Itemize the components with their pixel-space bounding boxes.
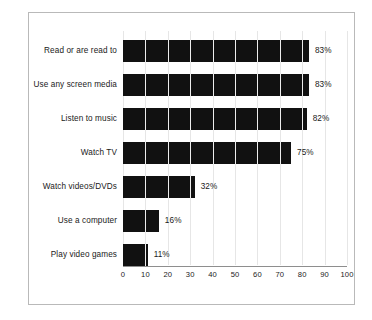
bar-value-label: 32% <box>201 183 218 191</box>
x-tick-label-0: 0 <box>121 271 125 279</box>
x-tick-label-50: 50 <box>231 271 240 279</box>
bar-value-label: 75% <box>297 149 314 157</box>
plot-area: 83%83%82%75%32%16%11% 010203040506070809… <box>123 13 347 304</box>
bar-gridline-overlay <box>235 108 236 130</box>
clipped-title-remnant <box>34 0 154 2</box>
bar-gridline-overlay <box>190 142 191 164</box>
bar-gridline-overlay <box>280 142 281 164</box>
bar-gridline-overlay <box>302 108 303 130</box>
x-tick-label-20: 20 <box>163 271 172 279</box>
x-tick-label-100: 100 <box>341 271 354 279</box>
bar-gridline-overlay <box>190 74 191 96</box>
gridline-90 <box>325 31 326 265</box>
bar-gridline-overlay <box>257 74 258 96</box>
bar-gridline-overlay <box>145 108 146 130</box>
category-label: Use a computer <box>29 217 117 225</box>
bar-gridline-overlay <box>168 40 169 62</box>
bar <box>123 244 148 266</box>
bar-gridline-overlay <box>168 142 169 164</box>
bar-gridline-overlay <box>213 74 214 96</box>
bar <box>123 74 309 96</box>
category-label: Play video games <box>29 251 117 259</box>
bar-gridline-overlay <box>145 74 146 96</box>
bar-gridline-overlay <box>280 74 281 96</box>
bar-gridline-overlay <box>302 74 303 96</box>
bar-gridline-overlay <box>213 108 214 130</box>
bar-gridline-overlay <box>257 142 258 164</box>
bar <box>123 210 159 232</box>
chart-plot-wrapper: Read or are read toUse any screen mediaL… <box>29 13 354 304</box>
bar-value-label: 83% <box>315 47 332 55</box>
bar <box>123 176 195 198</box>
category-label: Read or are read to <box>29 47 117 55</box>
bar-value-label: 11% <box>154 251 170 259</box>
bar-gridline-overlay <box>190 40 191 62</box>
bar-gridline-overlay <box>280 108 281 130</box>
x-tick-label-80: 80 <box>298 271 307 279</box>
bar <box>123 40 309 62</box>
category-label: Watch videos/DVDs <box>29 183 117 191</box>
chart-frame: Read or are read toUse any screen mediaL… <box>28 12 355 305</box>
bar-gridline-overlay <box>168 74 169 96</box>
bar-gridline-overlay <box>213 40 214 62</box>
category-label: Watch TV <box>29 149 117 157</box>
category-label: Listen to music <box>29 115 117 123</box>
bar-gridline-overlay <box>145 210 146 232</box>
bar-gridline-overlay <box>168 108 169 130</box>
x-tick-label-90: 90 <box>320 271 329 279</box>
bar-gridline-overlay <box>257 108 258 130</box>
bar-gridline-overlay <box>145 40 146 62</box>
x-tick-label-10: 10 <box>141 271 150 279</box>
bar-value-label: 82% <box>313 115 330 123</box>
x-tick-label-40: 40 <box>208 271 217 279</box>
bar-gridline-overlay <box>145 142 146 164</box>
bar-value-label: 16% <box>165 217 182 225</box>
x-tick-label-30: 30 <box>186 271 195 279</box>
category-label: Use any screen media <box>29 81 117 89</box>
bar <box>123 142 291 164</box>
bar-gridline-overlay <box>168 176 169 198</box>
category-axis-labels: Read or are read toUse any screen mediaL… <box>29 13 117 304</box>
bar-gridline-overlay <box>145 244 146 266</box>
x-tick-label-60: 60 <box>253 271 262 279</box>
bar-gridline-overlay <box>280 40 281 62</box>
bar-gridline-overlay <box>145 176 146 198</box>
bar-gridline-overlay <box>213 142 214 164</box>
bar-gridline-overlay <box>257 40 258 62</box>
x-tick-label-70: 70 <box>275 271 284 279</box>
bar-gridline-overlay <box>235 74 236 96</box>
x-axis-line <box>123 266 347 267</box>
bar-value-label: 83% <box>315 81 332 89</box>
bar-gridline-overlay <box>235 40 236 62</box>
bar-gridline-overlay <box>190 176 191 198</box>
bar-gridline-overlay <box>190 108 191 130</box>
bar <box>123 108 307 130</box>
gridline-100 <box>347 31 348 265</box>
bar-gridline-overlay <box>302 40 303 62</box>
bar-gridline-overlay <box>235 142 236 164</box>
